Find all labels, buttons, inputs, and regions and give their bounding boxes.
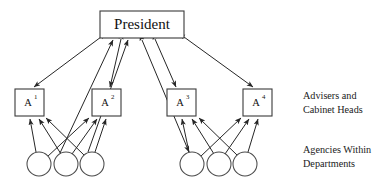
agency-g4-circle[interactable] [180, 152, 204, 176]
adviser-a3-label: A [176, 97, 184, 108]
adviser-a4-label: A [252, 97, 260, 108]
agency-g5-circle[interactable] [207, 152, 231, 176]
node-agency-g2[interactable] [54, 152, 78, 176]
node-agency-g3[interactable] [80, 152, 104, 176]
node-adviser-a1[interactable]: A 1 [15, 89, 44, 116]
edges-left-agencies [30, 118, 106, 157]
agency-g1-circle[interactable] [27, 152, 51, 176]
edge-g4-a4 [200, 118, 241, 157]
adviser-a4-superscript: 4 [262, 93, 266, 100]
edge-g1-a1 [30, 119, 36, 152]
diagram-canvas: President A 1 A 2 A 3 A 4 [0, 0, 386, 182]
agency-g3-circle[interactable] [80, 152, 104, 176]
node-adviser-a3[interactable]: A 3 [167, 89, 196, 116]
edge-g6-a3 [199, 118, 238, 156]
adviser-a1-label: A [24, 97, 32, 108]
edge-president-a1 [34, 37, 101, 87]
node-agency-g5[interactable] [207, 152, 231, 176]
edge-president-a4 [184, 37, 253, 87]
edge-g1-a2 [47, 118, 89, 157]
edge-g5-a3 [192, 119, 214, 154]
edge-g4-a3 [182, 119, 189, 152]
edge-president-a3 [155, 39, 176, 87]
caption-agencies-line1: Agencies Within [303, 144, 371, 155]
node-adviser-a4[interactable]: A 4 [243, 89, 272, 116]
node-president[interactable]: President [100, 11, 184, 38]
caption-agencies-line2: Departments [303, 158, 355, 169]
edge-g6-a4 [248, 119, 258, 152]
adviser-a3-superscript: 3 [186, 93, 190, 100]
president-label: President [114, 16, 171, 32]
caption-agencies: Agencies Within Departments [303, 144, 371, 169]
caption-advisers-line2: Cabinet Heads [303, 104, 363, 115]
adviser-a2-superscript: 2 [111, 93, 115, 100]
edge-g3-a1 [46, 118, 85, 156]
adviser-a2-label: A [101, 97, 109, 108]
edges-right-agencies [182, 118, 258, 157]
edge-g3-a2 [95, 119, 106, 152]
adviser-a1-superscript: 1 [34, 93, 37, 100]
org-chart-svg: President A 1 A 2 A 3 A 4 [0, 0, 386, 182]
agency-g6-circle[interactable] [233, 152, 257, 176]
edge-g2-a1 [39, 119, 61, 154]
caption-advisers-line1: Advisers and [303, 90, 356, 101]
agency-g2-circle[interactable] [54, 152, 78, 176]
caption-advisers: Advisers and Cabinet Heads [303, 90, 363, 115]
node-agency-g6[interactable] [233, 152, 257, 176]
node-adviser-a2[interactable]: A 2 [92, 89, 121, 116]
edge-g5-a4 [225, 119, 249, 154]
node-agency-g4[interactable] [180, 152, 204, 176]
node-agency-g1[interactable] [27, 152, 51, 176]
